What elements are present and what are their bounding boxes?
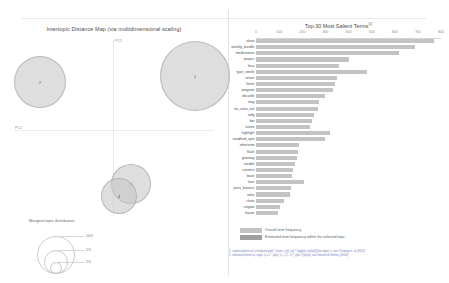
bar-overall-frequency — [256, 199, 284, 203]
bar-overall-frequency — [256, 137, 325, 141]
bar-term-label[interactable]: ethereum — [240, 143, 255, 147]
bar-row[interactable]: house — [256, 211, 441, 215]
bar-overall-frequency — [256, 107, 318, 111]
bar-term-label[interactable]: return — [245, 76, 254, 80]
bar-term-label[interactable]: decurile — [242, 94, 254, 98]
marginal-topic-distribution-legend: Marginal topic distribution 2%5%10% — [26, 218, 121, 280]
bar-overall-frequency — [256, 119, 312, 123]
saliency-relevance-footnote[interactable]: 1. saliency(term w) = frequency(w) * [su… — [229, 249, 434, 257]
legend-label: Overall term frequency — [265, 228, 301, 232]
bar-overall-frequency — [256, 51, 399, 55]
bar-row[interactable]: solar — [256, 192, 441, 196]
bar-row[interactable]: price_bounce — [256, 186, 441, 190]
bar-overall-frequency — [256, 131, 330, 135]
bar-row[interactable]: love — [256, 180, 441, 184]
bar-row[interactable]: future — [256, 125, 441, 129]
bar-overall-frequency — [256, 156, 297, 160]
bar-term-label[interactable]: tuffy — [248, 113, 255, 117]
bar-term-label[interactable]: finish — [246, 82, 254, 86]
bar-row[interactable]: flash — [256, 150, 441, 154]
bar-row[interactable]: ryan_steele — [256, 70, 441, 74]
bar-row[interactable]: face — [256, 64, 441, 68]
bar-term-label[interactable]: chain — [246, 199, 254, 203]
bar-row[interactable]: highlight — [256, 131, 441, 135]
bar-row[interactable]: decurile — [256, 94, 441, 98]
bar-term-label[interactable]: house — [245, 211, 255, 215]
marginal-circle-10pct — [37, 236, 75, 274]
pc1-axis-label: PC1 — [15, 126, 22, 130]
bar-overall-frequency — [256, 143, 299, 147]
bar-term-label[interactable]: solar — [247, 193, 255, 197]
bar-term-label[interactable]: gineway — [242, 156, 255, 160]
bar-overall-frequency — [256, 88, 333, 92]
bar-row[interactable]: ethereum — [256, 143, 441, 147]
intertopic-distance-panel: Intertopic Distance Map (via multidimens… — [0, 0, 228, 283]
salient-terms-title: Top-30 Most Salient Terms(1) — [228, 22, 449, 29]
bar-row[interactable]: citigate — [256, 205, 441, 209]
footnote-line[interactable]: 2. relevance(term w | topic t) = λ * p(w… — [229, 253, 434, 257]
salient-terms-title-footnote: (1) — [368, 22, 372, 26]
bar-term-label[interactable]: base — [247, 174, 255, 178]
bar-row[interactable]: program — [256, 88, 441, 92]
topic-bubble-label-4: 4 — [118, 194, 120, 199]
bar-term-label[interactable]: weekly_bundle — [231, 45, 254, 49]
pc1-axis — [14, 130, 214, 131]
bar-row[interactable]: stay — [256, 100, 441, 104]
bar-term-label[interactable]: love — [248, 180, 254, 184]
bar-overall-frequency — [256, 211, 278, 215]
bar-term-label[interactable]: stay — [248, 100, 254, 104]
bar-row[interactable]: gineway — [256, 156, 441, 160]
bar-term-label[interactable]: flash — [247, 150, 254, 154]
bar-row[interactable]: tuffy — [256, 113, 441, 117]
bar-row[interactable]: connect — [256, 168, 441, 172]
bar-overall-frequency — [256, 192, 290, 196]
bar-row[interactable]: finish — [256, 82, 441, 86]
bar-overall-frequency — [256, 39, 434, 43]
bar-overall-frequency — [256, 76, 337, 80]
bar-term-label[interactable]: connect — [242, 168, 254, 172]
bar-term-label[interactable]: show — [246, 39, 254, 43]
bar-term-label[interactable]: project — [244, 57, 255, 61]
bar-row[interactable]: tot_conn_net — [256, 107, 441, 111]
bar-row[interactable]: sandhed_spin — [256, 137, 441, 141]
bar-term-label[interactable]: trouble — [244, 162, 255, 166]
bar-term-label[interactable]: highlight — [241, 131, 254, 135]
bar-row[interactable]: trouble — [256, 162, 441, 166]
bar-row[interactable]: base — [256, 174, 441, 178]
topic-bubble-label-1: 1 — [194, 74, 196, 79]
bar-overall-frequency — [256, 57, 349, 61]
bar-row[interactable]: weekly_bundle — [256, 45, 441, 49]
bar-row[interactable]: chain — [256, 199, 441, 203]
bar-overall-frequency — [256, 113, 314, 117]
bar-term-label[interactable]: face — [248, 64, 255, 68]
bar-row[interactable]: show — [256, 39, 441, 43]
bar-term-label[interactable]: ryan_steele — [236, 70, 254, 74]
marginal-label-2pct: 2% — [86, 260, 91, 264]
x-tick-600: 600 — [392, 30, 398, 34]
bar-overall-frequency — [256, 168, 293, 172]
topic-bubble-label-2: 2 — [39, 80, 41, 85]
x-tick-700: 700 — [415, 30, 421, 34]
x-tick-200: 200 — [299, 30, 305, 34]
bar-term-label[interactable]: citigate — [243, 205, 254, 209]
bar-overall-frequency — [256, 205, 280, 209]
bar-overall-frequency — [256, 70, 367, 74]
bar-row[interactable]: mediconnex — [256, 51, 441, 55]
bar-row[interactable]: project — [256, 57, 441, 61]
bar-overall-frequency — [256, 174, 292, 178]
legend-swatch — [240, 235, 262, 240]
bar-row[interactable]: return — [256, 76, 441, 80]
bar-overall-frequency — [256, 186, 291, 190]
bar-overall-frequency — [256, 64, 339, 68]
intertopic-map-title: Intertopic Distance Map (via multidimens… — [0, 26, 228, 32]
bar-term-label[interactable]: bot — [250, 119, 255, 123]
marginal-label-10pct: 10% — [86, 234, 93, 238]
bar-overall-frequency — [256, 150, 298, 154]
bar-row[interactable]: bot — [256, 119, 441, 123]
bar-term-label[interactable]: sandhed_spin — [233, 137, 255, 141]
bar-term-label[interactable]: tot_conn_net — [234, 107, 254, 111]
bar-term-label[interactable]: future — [246, 125, 255, 129]
bar-term-label[interactable]: price_bounce — [233, 186, 254, 190]
bar-term-label[interactable]: program — [241, 88, 254, 92]
bar-term-label[interactable]: mediconnex — [236, 51, 255, 55]
